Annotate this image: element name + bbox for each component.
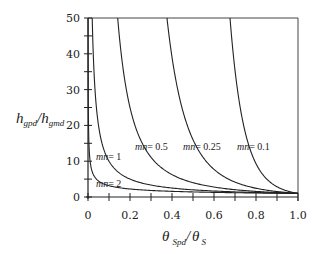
- y-tick-label: 40: [66, 48, 80, 61]
- y-tick-label: 10: [66, 155, 80, 168]
- x-tick-label: 0.2: [121, 209, 139, 222]
- curve-label: mn= 1: [96, 151, 121, 162]
- x-axis-title: θSpd/θS: [162, 228, 206, 247]
- x-tick-label: 0.4: [163, 209, 181, 222]
- y-axis-title: hgpd/hgmd: [16, 110, 65, 128]
- curves: [88, 18, 298, 193]
- curve-label: mn= 2: [96, 178, 121, 189]
- curve-2: [88, 18, 298, 193]
- curve-label: mn= 0.25: [183, 141, 221, 152]
- x-tick-label: 0.6: [205, 209, 223, 222]
- curve-labels: mn= 2mn= 1mn= 0.5mn= 0.25mn= 0.1: [96, 141, 270, 189]
- curve-0-1: [230, 18, 298, 193]
- x-tick-label: 0: [85, 209, 92, 222]
- y-tick-label: 50: [66, 12, 80, 25]
- x-tick-label: 0.8: [247, 209, 265, 222]
- curve-1: [92, 18, 298, 193]
- y-tick-label: 0: [73, 191, 80, 204]
- x-tick-label: 1.0: [289, 209, 307, 222]
- curve-label: mn= 0.5: [135, 141, 168, 152]
- chart: 0102030405000.20.40.60.81.0 mn= 2mn= 1mn…: [0, 0, 324, 254]
- y-tick-label: 30: [66, 84, 80, 97]
- axis-ticks: [84, 18, 298, 201]
- curve-label: mn= 0.1: [237, 141, 270, 152]
- y-tick-label: 20: [66, 119, 80, 132]
- curve-0-5: [118, 18, 298, 193]
- plot-frame: [86, 18, 298, 201]
